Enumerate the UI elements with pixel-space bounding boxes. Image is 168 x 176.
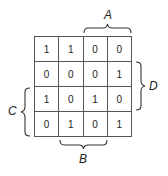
kmap-cell: 0 [35,112,59,137]
brace-a-icon [83,24,132,34]
label-b: B [79,152,87,166]
karnaugh-map: 1 1 0 0 0 0 0 1 1 0 1 0 0 1 0 1 [34,36,132,137]
label-c: C [8,104,17,118]
kmap-cell: 1 [35,87,59,112]
kmap-cell: 1 [59,112,83,137]
kmap-cell: 1 [83,87,107,112]
kmap-cell: 0 [107,87,131,112]
kmap-cell: 0 [107,37,131,62]
kmap-cell: 1 [107,62,131,87]
kmap-cell: 0 [59,87,83,112]
brace-c-icon [21,87,31,137]
kmap-cell: 0 [59,62,83,87]
kmap-row: 0 1 0 1 [35,112,132,137]
kmap-cell: 0 [83,112,107,137]
kmap-cell: 0 [83,62,107,87]
brace-b-icon [59,139,108,149]
kmap-cell: 0 [35,62,59,87]
kmap-cell: 0 [83,37,107,62]
kmap-cell: 1 [107,112,131,137]
kmap-row: 1 0 1 0 [35,87,132,112]
label-d: D [149,79,158,93]
kmap-row: 0 0 0 1 [35,62,132,87]
brace-d-icon [135,61,145,111]
kmap-cell: 1 [35,37,59,62]
label-a: A [104,8,112,22]
kmap-cell: 1 [59,37,83,62]
kmap-row: 1 1 0 0 [35,37,132,62]
